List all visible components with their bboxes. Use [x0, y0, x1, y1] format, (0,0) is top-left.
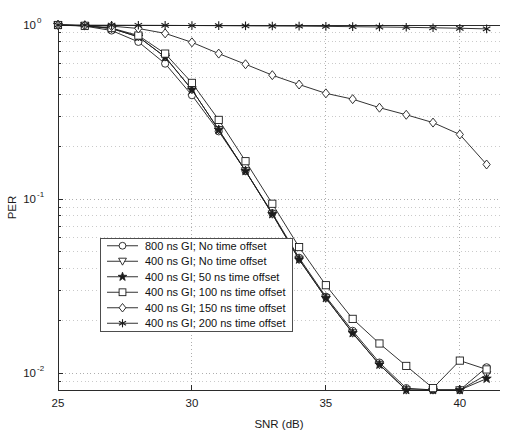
x-tick-label: 30: [186, 397, 199, 409]
x-tick-label: 40: [453, 397, 466, 409]
chart-legend[interactable]: 800 ns GI; No time offset400 ns GI; No t…: [100, 238, 292, 331]
data-marker: [162, 50, 169, 57]
data-marker: [322, 282, 329, 289]
y-tick-label: 10: [23, 367, 36, 379]
x-tick-label: 25: [52, 397, 65, 409]
chart-background: [0, 0, 532, 445]
legend-label: 400 ns GI; No time offset: [145, 255, 266, 267]
data-marker: [295, 243, 302, 250]
data-marker: [119, 242, 126, 249]
data-marker: [376, 340, 383, 347]
data-marker: [456, 357, 463, 364]
y-tick-exponent: -1: [37, 190, 45, 199]
legend-label: 400 ns GI; 100 ns time offset: [145, 286, 285, 298]
y-tick-label: 10: [23, 19, 36, 31]
y-tick-exponent: -2: [37, 364, 45, 373]
data-marker: [483, 366, 490, 373]
y-axis-title: PER: [6, 196, 18, 220]
data-marker: [215, 116, 222, 123]
legend-label: 400 ns GI; 50 ns time offset: [145, 271, 279, 283]
data-marker: [242, 158, 249, 165]
data-marker: [403, 362, 410, 369]
legend-label: 400 ns GI; 200 ns time offset: [145, 317, 285, 329]
data-marker: [119, 289, 126, 296]
figure-caption-strip: [0, 434, 532, 445]
y-tick-exponent: 0: [37, 16, 42, 25]
x-tick-label: 35: [319, 397, 332, 409]
legend-label: 800 ns GI; No time offset: [145, 240, 266, 252]
per-vs-snr-chart: 10010-110-225303540 SNR (dB)PER 800 ns G…: [0, 0, 532, 445]
data-marker: [188, 79, 195, 86]
legend-label: 400 ns GI; 150 ns time offset: [145, 302, 285, 314]
data-marker: [269, 200, 276, 207]
y-tick-label: 10: [23, 193, 36, 205]
x-axis-title: SNR (dB): [254, 418, 303, 430]
figure-container: 10010-110-225303540 SNR (dB)PER 800 ns G…: [0, 0, 532, 445]
data-marker: [349, 315, 356, 322]
data-marker: [429, 385, 436, 392]
